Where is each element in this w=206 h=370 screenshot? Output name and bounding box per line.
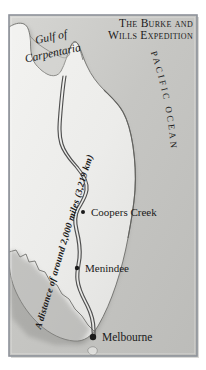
map-title-line1: The Burke and (119, 17, 193, 29)
burke-wills-expedition-map: Gulf of Carpentaria PACIFIC OCEAN A dist… (0, 0, 206, 370)
map-title-line2: Wills Expedition (108, 29, 193, 41)
coopers-creek-marker-dot[interactable] (81, 210, 85, 214)
menindee-label: Menindee (85, 262, 129, 274)
place-coopers-creek[interactable]: Coopers Creek (81, 206, 157, 218)
coopers-creek-label: Coopers Creek (91, 206, 157, 218)
melbourne-marker-dot[interactable] (90, 334, 96, 340)
menindee-marker-dot[interactable] (75, 266, 79, 270)
map-body: Gulf of Carpentaria PACIFIC OCEAN A dist… (9, 15, 197, 356)
map-canvas: Gulf of Carpentaria PACIFIC OCEAN A dist… (0, 0, 206, 370)
map-title-block: The Burke and Wills Expedition (108, 17, 193, 41)
melbourne-label: Melbourne (102, 331, 152, 343)
